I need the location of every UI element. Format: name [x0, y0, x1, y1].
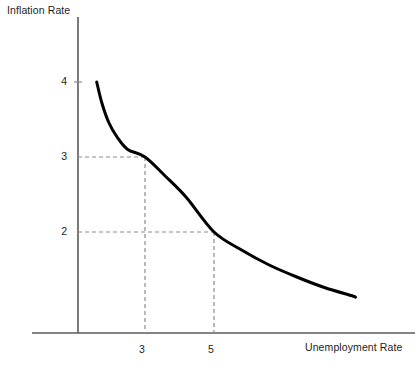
axes-group	[32, 17, 415, 333]
guide-lines-group	[78, 157, 214, 333]
data-series-group	[97, 82, 356, 297]
phillips-curve-line	[97, 82, 356, 297]
phillips-curve-chart: Inflation Rate Unemployment Rate 4 3 2 3…	[0, 0, 415, 374]
plot-area	[0, 0, 415, 374]
